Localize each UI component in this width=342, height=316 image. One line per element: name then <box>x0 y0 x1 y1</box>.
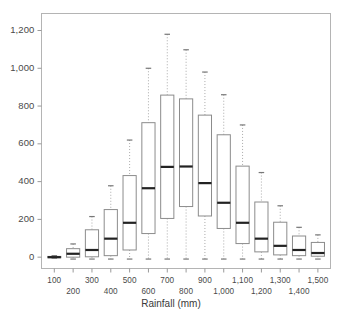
y-tick-label: 800 <box>18 100 34 111</box>
box-iqr <box>104 210 117 256</box>
x-tick-label: 1,400 <box>277 287 321 296</box>
box-iqr <box>85 230 98 257</box>
y-tick-label: 400 <box>18 175 34 186</box>
box-iqr <box>161 95 174 218</box>
box-iqr <box>236 166 249 243</box>
y-tick-label: 1,000 <box>10 62 34 73</box>
y-tick-label: 600 <box>18 137 34 148</box>
y-tick-label: 0 <box>29 251 34 262</box>
y-tick-label: 1,200 <box>10 24 34 35</box>
boxplot-canvas <box>0 0 342 316</box>
x-tick-label: 1,500 <box>296 276 340 285</box>
boxplot-figure: 02004006008001,0001,200 1002003004005006… <box>0 0 342 316</box>
box-iqr <box>142 123 155 234</box>
y-tick-label: 200 <box>18 213 34 224</box>
x-axis-title: Rainfall (mm) <box>0 298 342 309</box>
box-iqr <box>255 202 268 252</box>
box-iqr <box>292 236 305 256</box>
box-iqr <box>311 242 324 256</box>
box-iqr <box>123 176 136 250</box>
box-iqr <box>274 222 287 255</box>
box-plot-item <box>48 256 61 258</box>
box-iqr <box>217 135 230 229</box>
box-iqr <box>198 115 211 216</box>
box-iqr <box>180 99 193 207</box>
